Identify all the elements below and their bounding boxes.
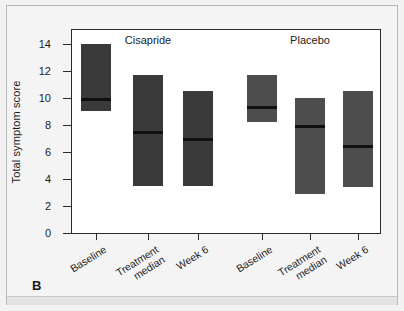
bar-placebo-baseline — [247, 75, 277, 122]
figure-bottom-strip — [7, 296, 397, 305]
bar-placebo-treatment-median — [295, 98, 325, 194]
y-tick-2: 2 — [63, 206, 72, 207]
y-tick-14: 14 — [63, 44, 72, 45]
x-tick-3 — [262, 233, 263, 240]
x-tick-2 — [198, 233, 199, 240]
group-title-cisapride: Cisapride — [125, 34, 171, 46]
y-tick-label-4: 4 — [45, 173, 51, 185]
median-line-cisapride-treatment-median — [133, 131, 163, 134]
y-tick-10: 10 — [63, 98, 72, 99]
median-line-placebo-treatment-median — [295, 125, 325, 128]
x-tick-0 — [96, 233, 97, 240]
median-line-placebo-week-6 — [343, 145, 373, 148]
median-line-cisapride-baseline — [81, 98, 111, 101]
group-title-placebo: Placebo — [290, 34, 330, 46]
y-tick-label-14: 14 — [39, 38, 51, 50]
y-tick-12: 12 — [63, 71, 72, 72]
x-tick-4 — [310, 233, 311, 240]
bar-placebo-week-6 — [343, 91, 373, 187]
y-tick-label-10: 10 — [39, 92, 51, 104]
x-tick-1 — [148, 233, 149, 240]
median-line-placebo-baseline — [247, 106, 277, 109]
figure-panel-b: Total symptom score 02468101214 Baseline… — [0, 0, 404, 311]
y-tick-6: 6 — [63, 152, 72, 153]
bar-cisapride-baseline — [81, 44, 111, 112]
y-tick-label-2: 2 — [45, 200, 51, 212]
panel-letter: B — [32, 278, 41, 293]
y-tick-8: 8 — [63, 125, 72, 126]
y-axis-title: Total symptom score — [10, 22, 22, 242]
plot-area: Total symptom score 02468101214 Baseline… — [72, 30, 380, 233]
y-tick-label-12: 12 — [39, 65, 51, 77]
median-line-cisapride-week-6 — [183, 138, 213, 141]
y-tick-label-0: 0 — [45, 227, 51, 239]
y-tick-label-8: 8 — [45, 119, 51, 131]
x-tick-5 — [358, 233, 359, 240]
y-tick-label-6: 6 — [45, 146, 51, 158]
plot-frame: Total symptom score 02468101214 Baseline… — [71, 29, 381, 234]
y-tick-0: 0 — [63, 233, 72, 234]
y-tick-4: 4 — [63, 179, 72, 180]
